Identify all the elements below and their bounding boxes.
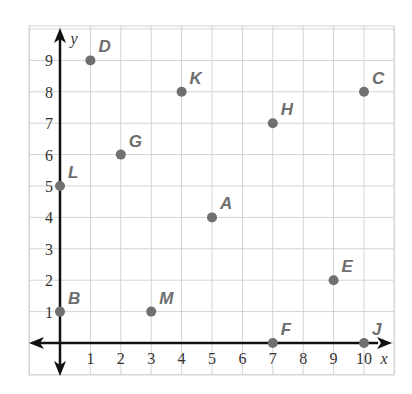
point-label: E	[342, 257, 354, 276]
point-k: K	[177, 69, 204, 97]
y-axis-label: y	[68, 30, 78, 48]
x-tick-label: 1	[86, 350, 94, 367]
point-a: A	[207, 194, 232, 222]
point-marker	[116, 150, 126, 160]
point-marker	[268, 338, 278, 348]
x-tick-label: 9	[330, 350, 338, 367]
tick-labels: 12345678910123456789xy	[45, 30, 388, 367]
point-label: M	[159, 289, 174, 308]
x-axis-label: x	[379, 350, 387, 367]
point-marker	[146, 307, 156, 317]
point-label: L	[68, 163, 78, 182]
x-tick-label: 7	[269, 350, 277, 367]
point-marker	[268, 118, 278, 128]
y-tick-label: 8	[45, 84, 53, 101]
point-h: H	[268, 100, 294, 128]
point-g: G	[116, 132, 142, 160]
point-label: D	[98, 37, 110, 56]
point-marker	[207, 212, 217, 222]
y-tick-label: 4	[45, 209, 53, 226]
x-tick-label: 10	[356, 350, 372, 367]
grid	[29, 26, 394, 375]
y-tick-label: 7	[45, 115, 53, 132]
point-label: H	[281, 100, 294, 119]
point-marker	[55, 181, 65, 191]
y-tick-label: 1	[45, 304, 53, 321]
y-tick-label: 9	[45, 52, 53, 69]
point-label: K	[190, 69, 204, 88]
point-marker	[55, 307, 65, 317]
y-tick-label: 6	[45, 147, 53, 164]
x-tick-label: 5	[208, 350, 216, 367]
point-label: G	[129, 132, 142, 151]
point-label: C	[372, 69, 385, 88]
point-marker	[177, 87, 187, 97]
axes	[29, 28, 392, 376]
x-tick-label: 6	[238, 350, 246, 367]
x-tick-label: 4	[178, 350, 186, 367]
point-marker	[329, 275, 339, 285]
point-d: D	[85, 37, 110, 65]
points: ABCDEFGHJKLM	[55, 37, 385, 348]
y-tick-label: 2	[45, 272, 53, 289]
x-tick-label: 3	[147, 350, 155, 367]
x-tick-label: 2	[117, 350, 125, 367]
point-l: L	[55, 163, 78, 191]
point-c: C	[359, 69, 385, 97]
point-marker	[85, 55, 95, 65]
y-tick-label: 5	[45, 178, 53, 195]
point-label: B	[68, 289, 80, 308]
point-label: J	[372, 320, 382, 339]
point-marker	[359, 338, 369, 348]
point-label: A	[219, 194, 232, 213]
point-label: F	[281, 320, 292, 339]
x-tick-label: 8	[299, 350, 307, 367]
point-marker	[359, 87, 369, 97]
point-e: E	[329, 257, 354, 285]
point-m: M	[146, 289, 174, 317]
y-tick-label: 3	[45, 241, 53, 258]
coordinate-plane: 12345678910123456789xy ABCDEFGHJKLM	[0, 0, 412, 394]
